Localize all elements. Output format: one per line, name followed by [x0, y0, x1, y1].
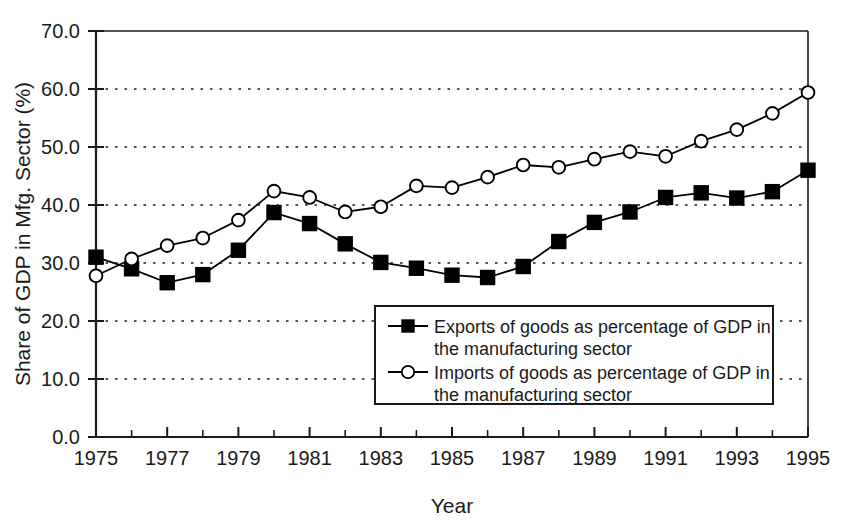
data-point-marker-square: [765, 185, 779, 199]
data-point-marker-circle: [695, 135, 708, 148]
x-tick-label: 1983: [359, 447, 404, 469]
data-point-marker-circle: [374, 200, 387, 213]
data-point-marker-circle: [161, 239, 174, 252]
data-point-marker-circle: [802, 86, 815, 99]
data-point-marker-circle: [268, 185, 281, 198]
data-point-marker-square: [659, 190, 673, 204]
legend-label-exports-line1: Exports of goods as percentage of GDP in: [434, 317, 771, 337]
data-point-marker-square: [374, 255, 388, 269]
data-point-marker-square: [231, 243, 245, 257]
data-point-marker-square: [160, 276, 174, 290]
data-point-marker-square: [552, 235, 566, 249]
y-tick-label: 70.0: [41, 20, 80, 42]
data-point-marker-circle: [410, 179, 423, 192]
legend-label-exports-line2: the manufacturing sector: [434, 339, 632, 359]
data-point-marker-square: [801, 163, 815, 177]
data-point-marker-square: [196, 268, 210, 282]
open-circle-icon: [402, 366, 414, 378]
x-tick-label: 1987: [501, 447, 546, 469]
data-point-marker-square: [623, 205, 637, 219]
data-point-marker-circle: [624, 145, 637, 158]
line-chart-canvas: 0.010.020.030.040.050.060.070.0 19751977…: [0, 0, 846, 527]
x-tick-label: 1989: [572, 447, 617, 469]
chart-legend: Exports of goods as percentage of GDP in…: [375, 306, 773, 405]
data-point-marker-circle: [588, 153, 601, 166]
data-point-marker-square: [587, 215, 601, 229]
x-tick-label: 1993: [715, 447, 760, 469]
x-tick-label: 1981: [287, 447, 332, 469]
y-tick-label: 50.0: [41, 136, 80, 158]
y-tick-label: 10.0: [41, 368, 80, 390]
y-axis-title: Share of GDP in Mfg. Sector (%): [11, 82, 34, 386]
y-tick-label: 30.0: [41, 252, 80, 274]
data-point-marker-circle: [517, 159, 530, 172]
x-tick-label: 1991: [643, 447, 688, 469]
data-point-marker-square: [730, 191, 744, 205]
legend-label-imports-line2: the manufacturing sector: [434, 385, 632, 405]
data-point-marker-square: [409, 261, 423, 275]
data-point-marker-circle: [730, 123, 743, 136]
x-axis-tick-labels: 1975197719791981198319851987198919911993…: [74, 447, 831, 469]
data-point-marker-circle: [90, 269, 103, 282]
y-tick-label: 40.0: [41, 194, 80, 216]
data-point-marker-square: [694, 186, 708, 200]
data-point-marker-circle: [766, 107, 779, 120]
data-point-marker-square: [338, 237, 352, 251]
x-axis-title: Year: [431, 494, 473, 517]
y-tick-label: 60.0: [41, 78, 80, 100]
legend-label-imports-line1: Imports of goods as percentage of GDP in: [434, 363, 770, 383]
data-point-marker-circle: [125, 253, 138, 266]
x-tick-label: 1975: [74, 447, 119, 469]
data-point-marker-circle: [303, 191, 316, 204]
x-tick-label: 1985: [430, 447, 475, 469]
x-tick-label: 1979: [216, 447, 261, 469]
data-point-marker-circle: [232, 214, 245, 227]
y-tick-label: 20.0: [41, 310, 80, 332]
x-tick-label: 1995: [786, 447, 831, 469]
data-point-marker-circle: [339, 206, 352, 219]
chart-figure: 0.010.020.030.040.050.060.070.0 19751977…: [0, 0, 846, 527]
data-point-marker-square: [89, 250, 103, 264]
data-point-marker-circle: [446, 181, 459, 194]
data-point-marker-circle: [659, 150, 672, 163]
data-point-marker-circle: [196, 232, 209, 245]
x-tick-label: 1977: [145, 447, 190, 469]
data-point-marker-circle: [552, 161, 565, 174]
y-tick-label: 0.0: [52, 426, 80, 448]
filled-square-icon: [402, 320, 414, 332]
data-point-marker-square: [516, 259, 530, 273]
data-point-marker-square: [481, 271, 495, 285]
data-point-marker-square: [267, 206, 281, 220]
data-point-marker-circle: [481, 171, 494, 184]
data-point-marker-square: [303, 217, 317, 231]
data-point-marker-square: [445, 268, 459, 282]
